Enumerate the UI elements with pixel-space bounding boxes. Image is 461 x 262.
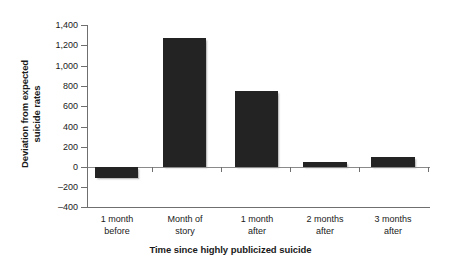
- y-tick-neg400: [81, 207, 88, 208]
- bar-1-month-after: [235, 91, 278, 167]
- y-tick-neg200: [81, 187, 88, 188]
- y-axis-title: Deviation from expected suicide rates: [14, 18, 48, 210]
- y-tick-1200: [81, 45, 88, 46]
- x-label-5-line2: after: [358, 226, 428, 238]
- y-tick-0: [81, 167, 88, 168]
- y-axis-title-line1: Deviation from expected: [19, 60, 30, 168]
- x-tick-2: [221, 167, 222, 172]
- x-label-2-months-after: 2 months after: [290, 214, 360, 237]
- x-label-2-line2: story: [150, 226, 220, 238]
- y-tick-label-1000: 1,000: [55, 61, 78, 71]
- bar-chart: Deviation from expected suicide rates 1,…: [0, 0, 461, 262]
- y-tick-label-1200: 1,200: [55, 40, 78, 50]
- y-tick-label-200: 200: [63, 142, 78, 152]
- x-tick-5: [428, 167, 429, 172]
- y-tick-label-800: 800: [63, 81, 78, 91]
- y-tick-200: [81, 147, 88, 148]
- y-tick-400: [81, 127, 88, 128]
- x-tick-1: [152, 167, 153, 172]
- y-tick-label-0: 0: [73, 162, 78, 172]
- x-label-4-line1: 2 months: [306, 214, 343, 224]
- y-axis-line: [87, 25, 88, 208]
- y-tick-label-600: 600: [63, 101, 78, 111]
- x-tick-4: [359, 167, 360, 172]
- y-axis-title-line2: suicide rates: [31, 60, 43, 168]
- y-tick-1400: [81, 25, 88, 26]
- y-tick-label-neg200: –200: [58, 182, 78, 192]
- x-axis-line: [87, 207, 430, 208]
- y-tick-600: [81, 106, 88, 107]
- x-label-3-line1: 1 month: [241, 214, 274, 224]
- x-label-2-line1: Month of: [167, 214, 202, 224]
- x-label-3-line2: after: [222, 226, 292, 238]
- y-tick-label-neg400: –400: [58, 202, 78, 212]
- bar-month-of-story: [163, 38, 206, 167]
- zero-baseline: [87, 167, 430, 168]
- x-label-1-line2: before: [82, 226, 152, 238]
- x-label-1-month-after: 1 month after: [222, 214, 292, 237]
- x-axis-title: Time since highly publicized suicide: [0, 244, 461, 255]
- x-label-1-line1: 1 month: [101, 214, 134, 224]
- x-tick-3: [290, 167, 291, 172]
- bar-3-months-after: [371, 157, 415, 167]
- x-label-3-months-after: 3 months after: [358, 214, 428, 237]
- x-label-5-line1: 3 months: [374, 214, 411, 224]
- bar-1-month-before: [95, 167, 138, 178]
- x-label-1-month-before: 1 month before: [82, 214, 152, 237]
- y-tick-label-1400: 1,400: [55, 20, 78, 30]
- x-axis-tick-labels: 1 month before Month of story 1 month af…: [87, 214, 430, 244]
- x-label-month-of-story: Month of story: [150, 214, 220, 237]
- y-tick-1000: [81, 66, 88, 67]
- bar-2-months-after: [303, 162, 347, 167]
- y-tick-800: [81, 86, 88, 87]
- y-tick-label-400: 400: [63, 122, 78, 132]
- plot-area: 1,400 1,200 1,000 800 600 400 200 0 –200…: [87, 25, 430, 208]
- x-label-4-line2: after: [290, 226, 360, 238]
